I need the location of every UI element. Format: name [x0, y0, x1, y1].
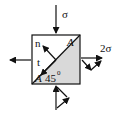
plane-label-top: A [66, 36, 74, 48]
tangent-label: t [37, 56, 40, 68]
right-component-arrow-2 [91, 61, 101, 70]
normal-label: n [35, 37, 41, 49]
sigma-right-label: 2σ [100, 42, 112, 54]
plane-label-bottom: A [34, 72, 42, 84]
angle-degree-label: 0 [57, 69, 61, 77]
right-component-arrow-1 [82, 60, 91, 70]
angle-label: 45 [45, 72, 57, 84]
sigma-top-label: σ [62, 8, 68, 20]
stress-element-diagram: σ 2σ n t A A 45 0 [0, 0, 123, 116]
normal-vector-arrow [43, 46, 56, 60]
bottom-component-arrow-1 [57, 87, 67, 97]
bottom-component-arrow-2 [57, 98, 69, 108]
